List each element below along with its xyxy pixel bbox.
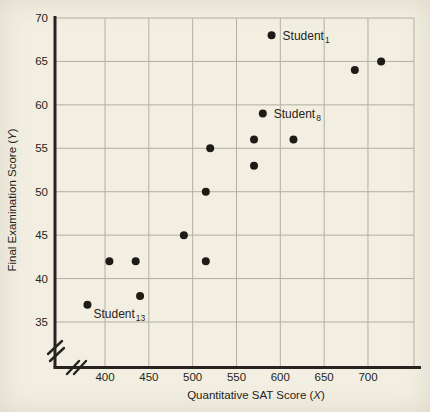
x-tick-label: 700 <box>358 371 377 383</box>
plot-svg: 4004505005506006507003540455055606570Qua… <box>0 0 430 412</box>
y-tick-label: 50 <box>35 186 48 198</box>
x-tick-label: 500 <box>183 371 202 383</box>
x-axis-title: Quantitative SAT Score (X) <box>187 389 325 401</box>
data-point <box>206 144 214 152</box>
y-tick-label: 40 <box>35 273 48 285</box>
data-point <box>105 257 113 265</box>
y-axis-title: Final Examination Score (Y) <box>6 128 18 271</box>
data-point <box>259 110 267 118</box>
data-points <box>83 31 385 308</box>
point-annotation: Student1 <box>283 29 330 45</box>
y-tick-label: 65 <box>35 55 48 67</box>
y-tick-label: 55 <box>35 142 48 154</box>
data-point <box>132 257 140 265</box>
data-point <box>351 66 359 74</box>
y-tick-label: 45 <box>35 229 48 241</box>
data-point <box>202 257 210 265</box>
y-tick-label: 35 <box>35 316 48 328</box>
x-tick-label: 600 <box>271 371 290 383</box>
x-tick-label: 550 <box>227 371 246 383</box>
scatter-plot-figure: 4004505005506006507003540455055606570Qua… <box>0 0 430 412</box>
data-point <box>83 301 91 309</box>
y-tick-label: 70 <box>35 12 48 24</box>
point-annotation: Student13 <box>93 307 145 323</box>
x-tick-label: 450 <box>139 371 158 383</box>
data-point <box>289 136 297 144</box>
point-annotation: Student8 <box>274 107 321 123</box>
data-point <box>250 162 258 170</box>
x-tick-label: 400 <box>95 371 114 383</box>
data-point <box>202 188 210 196</box>
y-tick-label: 60 <box>35 99 48 111</box>
x-tick-label: 650 <box>315 371 334 383</box>
data-point <box>268 31 276 39</box>
data-point <box>180 231 188 239</box>
data-point <box>377 57 385 65</box>
data-point <box>250 136 258 144</box>
data-point <box>136 292 144 300</box>
